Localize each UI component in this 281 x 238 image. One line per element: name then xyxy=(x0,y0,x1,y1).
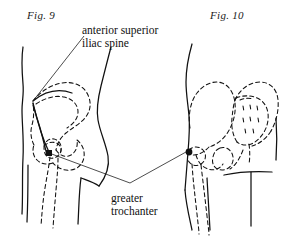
fig9-anterior-thigh xyxy=(27,165,28,222)
fig9-gluteal-fold xyxy=(81,178,99,186)
fig10-greater-trochanter-marker xyxy=(186,149,193,156)
anterior-superior-iliac-spine-label: anterior superior iliac spine xyxy=(82,24,158,50)
fig10-sacral-mark-7 xyxy=(245,129,246,135)
fig10-pelvis-dashed xyxy=(188,82,278,235)
fig10-left-flank-contour xyxy=(185,44,192,190)
fig9-pelvis-dashed xyxy=(31,83,90,228)
fig9-femur-shaft-lateral xyxy=(53,158,58,228)
fig9-crest-contour xyxy=(33,91,72,101)
fig10-left-ilium xyxy=(189,82,235,128)
fig10-sacral-mark-8 xyxy=(253,129,254,135)
fig10-sacral-mark-5 xyxy=(250,117,251,123)
asis-label-line1: anterior superior xyxy=(82,24,158,36)
fig9-inguinal-sweep-2 xyxy=(33,105,47,155)
fig9-anterior-pelvic-border xyxy=(31,103,34,145)
fig10-femur-medial xyxy=(192,164,199,234)
fig10-sacral-mark-3 xyxy=(257,106,258,112)
fig9-femur-shaft-medial xyxy=(41,157,50,226)
fig10-right-ilium-lower xyxy=(252,131,271,146)
fig10-obturator-foramen xyxy=(212,147,233,170)
gt-label-line2: trochanter xyxy=(111,205,158,218)
fig10-right-flank-contour xyxy=(276,118,277,160)
anatomy-figure-plate: Fig. 9 Fig. 10 anterior superior iliac s… xyxy=(0,0,281,238)
fig9-iliac-fossa xyxy=(36,96,78,128)
fig10-left-thigh-outer xyxy=(185,190,192,230)
fig9-ilium-outline xyxy=(33,83,90,150)
fig10-sacral-mark-1 xyxy=(243,106,244,112)
fig10-left-ilium-lower xyxy=(209,103,235,147)
fig10-left-inferior-ramus xyxy=(196,155,223,170)
fig9-body-contours xyxy=(22,47,111,224)
fig10-body-contours xyxy=(185,44,277,230)
fig10-sacrum-left-border xyxy=(232,98,237,142)
fig9-anterior-contour xyxy=(22,47,23,214)
greater-trochanter-leader-line xyxy=(49,152,186,183)
leader-lines xyxy=(33,36,186,183)
gt-label-line1: greater xyxy=(111,192,143,204)
fig10-caption: Fig. 10 xyxy=(210,9,244,21)
fig10-coccyx xyxy=(249,144,250,164)
fig10-sacral-mark-4 xyxy=(243,118,244,124)
greater-trochanter-label: greater trochanter xyxy=(111,192,158,218)
fig9-posterior-thigh xyxy=(78,178,81,224)
fig10-sacral-mark-2 xyxy=(250,105,251,111)
fig10-gluteal-fold xyxy=(224,172,272,175)
fig9-buttock-contour xyxy=(97,47,111,186)
fig9-caption: Fig. 9 xyxy=(27,9,55,21)
fig10-sacral-mark-6 xyxy=(258,118,259,124)
fig10-sacrum-outline xyxy=(236,96,268,145)
fig10-sacral-base xyxy=(240,98,253,100)
asis-label-line2: iliac spine xyxy=(82,37,158,50)
